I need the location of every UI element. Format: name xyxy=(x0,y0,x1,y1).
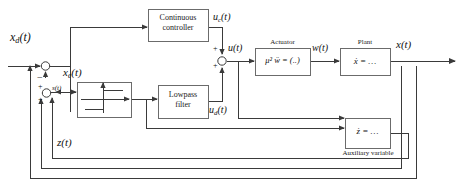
signal-xe-label: xe(t) xyxy=(63,66,82,80)
block-diagram: Continuous controller Lowpass filter Act… xyxy=(0,0,475,190)
plant-equation: ẋ = … xyxy=(340,56,390,66)
u-summing-junction xyxy=(218,57,226,65)
signal-u-label: u(t) xyxy=(228,42,242,53)
relay-junction-plus-bottom-sign: + xyxy=(38,95,43,104)
auxiliary-caption: Auxiliary variable xyxy=(330,149,406,157)
signal-w-label: w(t) xyxy=(312,42,328,53)
u-junction-plus-bottom-sign: + xyxy=(213,61,218,70)
relay-junction-plus-top-sign: + xyxy=(38,82,43,91)
signal-x-label: x(t) xyxy=(396,38,411,50)
signal-uc-label: uc(t) xyxy=(213,11,230,23)
relay-summing-junction xyxy=(42,89,50,97)
diagram-lines-layer xyxy=(0,0,475,190)
lowpass-filter-block xyxy=(158,85,208,118)
lowpass-output-line xyxy=(208,72,222,101)
u-junction-plus-top-sign: + xyxy=(213,44,218,53)
continuous-controller-block xyxy=(148,9,208,41)
signal-s-label: s(t) xyxy=(52,84,61,92)
signal-xd-label: xd(t) xyxy=(10,30,31,45)
actuator-caption: Actuator xyxy=(255,38,310,46)
signal-ud-label: ud(t) xyxy=(209,104,227,116)
signal-z-label: z(t) xyxy=(57,136,72,148)
actuator-equation: μ² ẅ = (..) xyxy=(255,55,310,65)
error-summing-junction xyxy=(41,62,49,70)
auxiliary-equation: ż = … xyxy=(345,126,390,136)
plant-caption: Plant xyxy=(340,38,390,46)
